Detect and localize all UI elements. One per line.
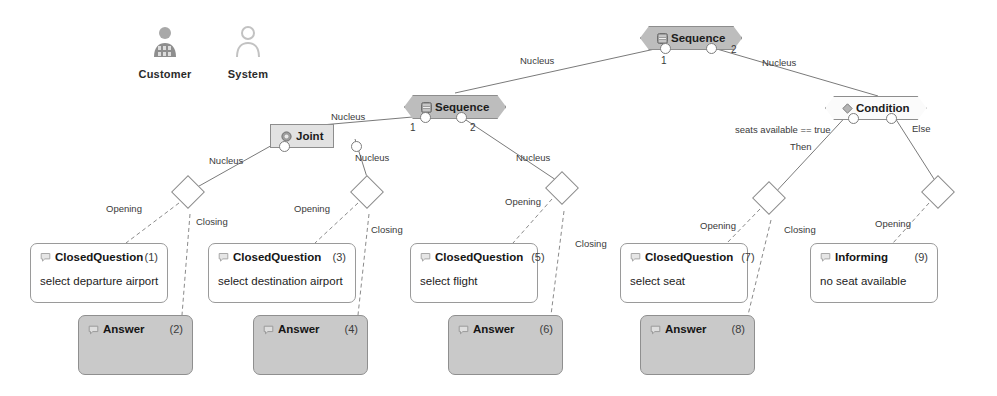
box-title: Answer [473,323,515,335]
box-number: (8) [732,323,745,335]
box-header: ClosedQuestion (5) [420,251,528,263]
edge-label-opening-2: Opening [294,203,330,214]
box-header: Answer (6) [458,323,553,335]
node-sequence-top[interactable]: Sequence [640,26,742,50]
edge-label-opening-1: Opening [106,203,142,214]
box-number: (6) [540,323,553,335]
box-number: (9) [915,251,928,263]
edge-label-condition-else: Else [912,123,930,134]
port-index-seq-top-2: 2 [731,44,737,55]
box-number: (3) [333,251,346,263]
box-body-text: select departure airport [40,275,158,287]
closed-question-icon [218,252,229,263]
port-joint-left[interactable] [279,141,290,152]
box-title: ClosedQuestion [645,251,733,263]
box-body-text: select flight [420,275,528,287]
node-closedquestion-7[interactable]: ClosedQuestion (7) select seat [620,243,748,303]
sequence-icon [657,33,668,44]
closed-question-icon [40,252,51,263]
box-title: ClosedQuestion [435,251,523,263]
box-header: Informing (9) [820,251,928,263]
box-body-text: no seat available [820,275,928,287]
box-body-text: select destination airport [218,275,346,287]
box-title: Informing [835,251,888,263]
port-condition-else[interactable] [886,113,897,124]
box-number: (4) [345,323,358,335]
box-header: Answer (2) [88,323,183,335]
node-answer-8[interactable]: Answer (8) [640,315,755,375]
box-header: ClosedQuestion (1) [40,251,158,263]
joint-icon [281,131,292,142]
node-closedquestion-3[interactable]: ClosedQuestion (3) select destination ai… [208,243,356,303]
diagram-canvas: Customer System Sequence 1 2 [0,0,997,396]
legend-system: System [208,24,288,82]
node-sequence-top-label: Sequence [671,32,725,44]
edge-label-nucleus-mid-right: Nucleus [516,152,550,163]
answer-icon [88,324,99,335]
legend-customer: Customer [125,24,205,82]
port-seq-mid-1[interactable] [420,112,431,123]
node-joint-label: Joint [296,130,323,142]
closed-question-icon [420,252,431,263]
person-filled-icon [125,24,205,64]
port-joint-right[interactable] [351,141,362,152]
port-seq-top-1[interactable] [660,43,671,54]
legend-system-label: System [228,68,268,80]
edge-label-condition-then: Then [790,141,812,152]
edge-label-condition-guard: seats available == true [735,124,831,135]
box-header: ClosedQuestion (7) [630,251,738,263]
box-header: ClosedQuestion (3) [218,251,346,263]
box-number: (5) [531,251,544,263]
edge-label-nucleus-joint-left: Nucleus [209,155,243,166]
node-condition[interactable]: Condition [825,96,927,120]
box-number: (7) [741,251,754,263]
edge-label-closing-3: Closing [575,238,607,249]
answer-icon [458,324,469,335]
edge-label-opening-3: Opening [505,196,541,207]
box-title: ClosedQuestion [55,251,143,263]
edge-label-opening-4: Opening [700,220,736,231]
node-closedquestion-1[interactable]: ClosedQuestion (1) select departure airp… [30,243,168,303]
edge-label-nucleus-joint-right: Nucleus [355,152,389,163]
edge-label-nucleus-mid-left: Nucleus [331,111,365,122]
edge-label-closing-1: Closing [196,216,228,227]
node-answer-4[interactable]: Answer (4) [253,315,368,375]
box-title: Answer [103,323,145,335]
box-header: Answer (8) [650,323,745,335]
informing-icon [820,252,831,263]
legend-customer-label: Customer [139,68,192,80]
node-answer-6[interactable]: Answer (6) [448,315,563,375]
port-seq-mid-2[interactable] [456,112,467,123]
answer-icon [650,324,661,335]
sequence-icon [421,102,432,113]
box-title: Answer [278,323,320,335]
answer-icon [263,324,274,335]
box-title: ClosedQuestion [233,251,321,263]
edge-label-closing-2: Closing [371,224,403,235]
box-number: (2) [170,323,183,335]
box-number: (1) [145,251,158,263]
condition-icon [842,103,853,114]
edge-label-closing-4: Closing [784,224,816,235]
node-answer-2[interactable]: Answer (2) [78,315,193,375]
box-body-text: select seat [630,275,738,287]
closed-question-icon [630,252,641,263]
edge-label-nucleus-top-left: Nucleus [520,55,554,66]
box-header: Answer (4) [263,323,358,335]
box-title: Answer [665,323,707,335]
edge-label-opening-5: Opening [875,218,911,229]
port-index-seq-mid-2: 2 [470,122,476,133]
node-condition-label: Condition [856,102,910,114]
node-informing-9[interactable]: Informing (9) no seat available [810,243,938,303]
person-outline-icon [208,24,288,64]
edge-label-nucleus-top-right: Nucleus [762,57,796,68]
port-index-seq-top-1: 1 [661,55,667,66]
port-condition-then[interactable] [848,113,859,124]
port-seq-top-2[interactable] [706,43,717,54]
port-index-seq-mid-1: 1 [410,122,416,133]
node-closedquestion-5[interactable]: ClosedQuestion (5) select flight [410,243,538,303]
